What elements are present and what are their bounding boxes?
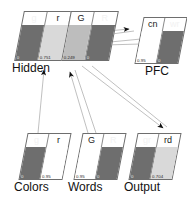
wire-hidden-to-output-b — [92, 66, 167, 127]
unit-label: gr — [143, 134, 151, 147]
unit-value: 0 — [21, 174, 23, 179]
wire-hidden-to-output — [82, 66, 163, 128]
unit-label: G — [89, 134, 96, 147]
unit-value: 0.249 — [64, 55, 75, 60]
layer-words[interactable]: G 0.95 R 0 — [78, 133, 122, 180]
unit-row: G 0.95 R 0 — [73, 133, 126, 180]
layer-colors[interactable]: g 0 r 0.95 — [23, 133, 67, 180]
unit-label: rd — [165, 134, 173, 147]
unit-value: 0.704 — [152, 174, 163, 179]
layer-output[interactable]: gr 0 rd 0.704 — [133, 133, 177, 180]
unit-label: g — [32, 12, 37, 25]
diagram-canvas: g 0 r 0.751 G 0.249 R 0 Hidden — [0, 0, 187, 204]
unit-label: g — [35, 134, 40, 147]
unit-value: 0 — [97, 174, 99, 179]
unit-label: R — [110, 134, 117, 147]
unit-row: gr 0 rd 0.704 — [128, 133, 181, 180]
unit-label: r — [56, 12, 59, 25]
unit-value: 0 — [158, 58, 160, 63]
layer-pfc[interactable]: cn 0.95 wr 0 — [139, 17, 183, 64]
unit-label: r — [57, 134, 60, 147]
unit-value: 0.95 — [137, 58, 146, 63]
unit-row: g 0 r 0.95 — [18, 133, 71, 180]
unit-value: 0.95 — [76, 174, 85, 179]
unit-label: cn — [148, 18, 158, 31]
unit-label: wr — [170, 18, 180, 31]
unit-value: 0 — [87, 55, 89, 60]
unit-value: 0 — [17, 55, 19, 60]
layer-hidden-group-a[interactable]: g 0 r 0.751 — [19, 11, 67, 61]
layer-hidden-group-b[interactable]: G 0.249 R 0 — [66, 11, 114, 61]
unit-label: G — [78, 12, 85, 25]
unit-row: cn 0.95 wr 0 — [134, 17, 187, 64]
unit-label: R — [102, 12, 109, 25]
unit-value: 0 — [131, 174, 133, 179]
unit-value: 0.95 — [42, 174, 51, 179]
wire-colors-to-hidden — [38, 70, 44, 133]
unit-row: G 0.249 R 0 — [61, 11, 119, 61]
unit-value: 0.751 — [40, 55, 51, 60]
